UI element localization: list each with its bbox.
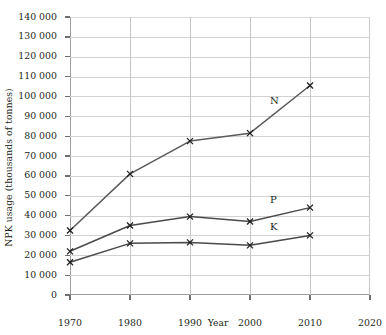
plot-area: 010 00020 00030 00040 00050 00060 00070 … bbox=[70, 17, 370, 295]
y-tick-label: 0 bbox=[0, 289, 57, 300]
x-tick-mark bbox=[129, 295, 130, 300]
y-tick-label: 40 000 bbox=[0, 209, 57, 220]
y-tick-label: 130 000 bbox=[0, 30, 57, 41]
y-tick-label: 110 000 bbox=[0, 70, 57, 81]
x-tick-mark bbox=[249, 295, 250, 300]
data-point-marker bbox=[127, 171, 133, 177]
y-tick-label: 70 000 bbox=[0, 150, 57, 161]
y-tick-label: 60 000 bbox=[0, 169, 57, 180]
y-tick-label: 10 000 bbox=[0, 269, 57, 280]
x-axis-title: Year bbox=[63, 317, 373, 328]
x-tick-mark bbox=[309, 295, 310, 300]
y-tick-label: 20 000 bbox=[0, 249, 57, 260]
x-tick-mark bbox=[369, 295, 370, 300]
y-tick-label: 100 000 bbox=[0, 90, 57, 101]
y-tick-label: 120 000 bbox=[0, 50, 57, 61]
y-tick-label: 140 000 bbox=[0, 11, 57, 22]
y-tick-label: 50 000 bbox=[0, 189, 57, 200]
y-tick-label: 30 000 bbox=[0, 229, 57, 240]
data-point-marker bbox=[67, 227, 73, 233]
x-tick-mark bbox=[69, 295, 70, 300]
data-point-marker bbox=[67, 248, 73, 254]
data-point-marker bbox=[307, 83, 313, 89]
series-label-N: N bbox=[270, 95, 279, 106]
series-line-N bbox=[70, 86, 310, 231]
x-tick-mark bbox=[189, 295, 190, 300]
series-line-K bbox=[70, 235, 310, 262]
series-label-P: P bbox=[270, 194, 277, 205]
series-lines bbox=[70, 17, 370, 295]
y-tick-label: 90 000 bbox=[0, 110, 57, 121]
series-label-K: K bbox=[270, 221, 277, 232]
y-tick-label: 80 000 bbox=[0, 130, 57, 141]
